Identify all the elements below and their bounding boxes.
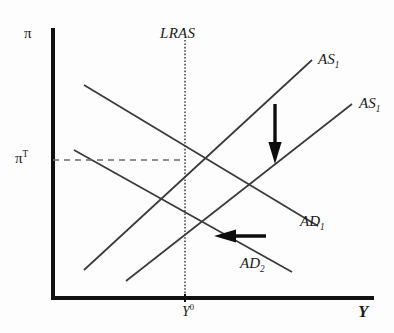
potential-output-tick-label: Y0 [182,303,194,319]
ad2-label-text: AD [240,255,260,271]
ad1-curve [84,85,318,226]
lras-label: LRAS [160,26,195,41]
y-axis-label: π [24,26,32,41]
ad-as-diagram-svg [0,0,394,333]
ad2-label-subscript: 2 [260,264,265,274]
inflation-target-superscript: T [23,149,29,159]
diagram-canvas: LRAS AS1 AS1 AD1 AD2 π πT Y0 Y [0,0,394,333]
ad-shift-left-arrow [214,229,266,242]
potential-output-superscript: 0 [190,302,194,312]
ad1-label-text: AD [300,213,320,229]
as1-label: AS1 [318,52,339,70]
x-axis-label: Y [358,303,368,320]
as2-label: AS1 [359,96,380,114]
ad2-label: AD2 [240,256,265,274]
as1-label-subscript: 1 [335,60,340,70]
inflation-target-symbol: π [15,150,23,166]
ad1-label: AD1 [300,214,325,232]
as1-label-text: AS [318,51,335,67]
ad1-label-subscript: 1 [320,222,325,232]
ad2-curve [74,150,292,272]
as2-label-subscript: 1 [376,104,381,114]
as2-label-text: AS [359,95,376,111]
potential-output-symbol: Y [182,304,190,319]
as1-curve [84,60,312,270]
inflation-target-tick-label: πT [15,150,28,166]
as-shift-down-arrow [268,104,281,164]
